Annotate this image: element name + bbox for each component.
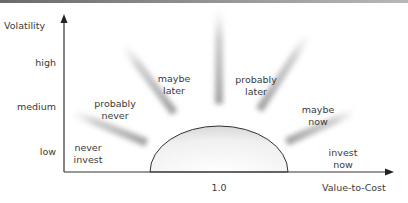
region-invest-now: invest now (329, 147, 358, 171)
region-label-line2: later (158, 85, 191, 97)
region-maybe-now: maybe now (302, 104, 335, 128)
y-axis-title: Volatility (4, 20, 45, 32)
region-probably-later: probably later (235, 74, 277, 98)
region-maybe-later: maybe later (158, 73, 191, 97)
y-tick-medium: medium (17, 101, 56, 113)
region-label-line2: never (94, 110, 136, 122)
ray-4 (256, 32, 312, 112)
region-probably-never: probably never (94, 98, 136, 122)
x-axis-title: Value-to-Cost (322, 182, 386, 194)
ray-3 (215, 9, 223, 104)
region-label-line2: now (302, 116, 335, 128)
region-label-line2: later (235, 86, 277, 98)
region-label-line1: invest (329, 147, 358, 159)
region-never-invest: never invest (74, 142, 103, 166)
region-label-line2: now (329, 159, 358, 171)
region-label-line2: invest (74, 154, 103, 166)
region-label-line1: probably (235, 74, 277, 86)
region-label-line1: maybe (158, 73, 191, 85)
y-tick-high: high (35, 57, 56, 69)
region-label-line1: probably (94, 98, 136, 110)
y-tick-low: low (40, 146, 56, 158)
diagram-canvas (0, 0, 408, 203)
x-tick-center: 1.0 (211, 182, 226, 194)
region-label-line1: maybe (302, 104, 335, 116)
threshold-dome (150, 126, 288, 172)
y-axis-arrow-icon (61, 14, 68, 23)
region-label-line1: never (74, 142, 103, 154)
x-axis-arrow-icon (385, 169, 394, 176)
